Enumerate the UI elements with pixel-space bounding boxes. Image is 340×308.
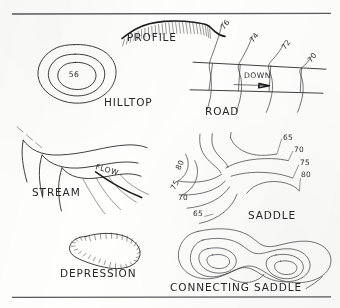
saddle-arm-upper-left-inner	[212, 134, 228, 168]
stream-channel-line	[96, 172, 142, 198]
saddle-arm-left-75	[182, 181, 225, 195]
connecting-saddle-contour-second	[190, 238, 310, 281]
saddle-leader-ticks-left	[205, 214, 213, 216]
saddle-label: SADDLE	[248, 209, 296, 221]
road-edge-upper	[193, 62, 326, 69]
stream-flow-label: FLOW	[94, 162, 119, 177]
saddle-arm-65-tail	[230, 132, 231, 137]
saddle-elevation-right-75: 75	[300, 158, 310, 167]
connecting-saddle-right-high-outer	[266, 254, 303, 278]
profile-panel: PROFILE	[122, 21, 225, 46]
saddle-elevation-right-70: 70	[294, 145, 304, 154]
road-label: ROAD	[205, 105, 239, 117]
saddle-elevation-right-65: 65	[283, 133, 293, 142]
road-panel: DOWN 76 74 72 70 ROAD	[190, 18, 326, 117]
stream-contour-outer-left-limb	[22, 140, 27, 182]
connecting-saddle-right-high-inner	[275, 261, 297, 275]
road-down-label: DOWN	[244, 71, 271, 80]
road-elevation-76: 76	[218, 18, 231, 31]
saddle-arm-upper-left-outer	[200, 134, 221, 173]
road-contour-70	[298, 56, 312, 112]
top-rule	[12, 13, 331, 14]
road-elevation-72: 72	[279, 38, 292, 51]
connecting-saddle-label: CONNECTING SADDLE	[170, 281, 302, 293]
bottom-rule	[12, 297, 331, 298]
saddle-arm-left-65	[200, 194, 237, 223]
depression-label: DEPRESSION	[60, 267, 137, 279]
saddle-arm-left-70	[187, 187, 230, 208]
contour-symbols-figure: PROFILE 56 HILLTOP	[0, 0, 340, 308]
saddle-arm-80	[247, 182, 300, 194]
figure-canvas: PROFILE 56 HILLTOP	[0, 0, 340, 308]
hilltop-center-elevation: 56	[69, 70, 80, 79]
stream-panel: FLOW STREAM	[17, 127, 148, 214]
saddle-elevation-left-80: 80	[173, 158, 186, 171]
hilltop-label: HILLTOP	[104, 96, 153, 108]
connecting-saddle-left-high-outer	[199, 248, 236, 273]
connecting-saddle-panel: CONNECTING SADDLE	[170, 229, 331, 293]
saddle-left-lobe-75-nose	[182, 161, 197, 195]
depression-panel: DEPRESSION	[60, 233, 140, 279]
stream-label: STREAM	[32, 186, 81, 198]
saddle-elevation-right-80: 80	[301, 170, 311, 179]
saddle-arm-65	[230, 137, 276, 155]
connecting-saddle-left-high-inner	[207, 255, 230, 269]
saddle-arm-70	[226, 159, 288, 168]
hilltop-panel: 56 HILLTOP	[38, 44, 153, 108]
profile-label: PROFILE	[127, 31, 177, 43]
stream-branch-lines	[83, 175, 148, 214]
road-elevation-74: 74	[247, 31, 260, 44]
saddle-panel: 65 70 75 80 80 75 70 65 SADDLE	[168, 132, 311, 223]
connecting-saddle-label-leader	[306, 277, 322, 289]
stream-divide-dashes	[17, 127, 42, 148]
road-contour-70-crossing	[300, 68, 301, 93]
stream-contour-second	[42, 155, 138, 168]
saddle-elevation-left-65: 65	[193, 209, 203, 218]
saddle-arm-75	[231, 172, 292, 178]
saddle-elevation-left-70: 70	[178, 193, 188, 202]
